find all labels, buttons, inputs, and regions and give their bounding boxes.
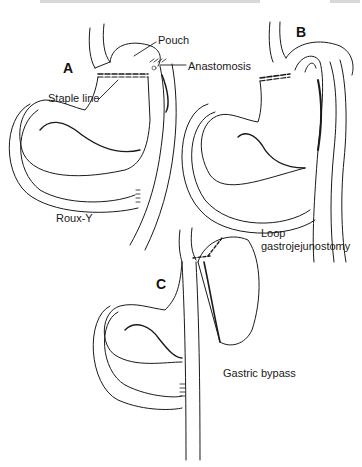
panel-b-letter: B [296, 24, 306, 40]
loop-label-line2: gastrojejunostomy [261, 240, 350, 252]
staple-line-leader [98, 80, 118, 100]
roux-y-label: Roux-Y [56, 212, 93, 224]
gastric-bypass-label: Gastric bypass [223, 367, 296, 379]
panel-a-letter: A [63, 60, 73, 76]
surgical-illustration [0, 0, 362, 467]
staple-line-label: Staple line [48, 92, 99, 104]
pouch-label: Pouch [158, 34, 189, 46]
panel-b-drawing [182, 22, 353, 262]
loop-label-line1: Loop [261, 227, 285, 239]
panel-c-drawing [93, 228, 259, 460]
anastomosis-label: Anastomosis [188, 60, 251, 72]
panel-c-letter: C [156, 276, 166, 292]
